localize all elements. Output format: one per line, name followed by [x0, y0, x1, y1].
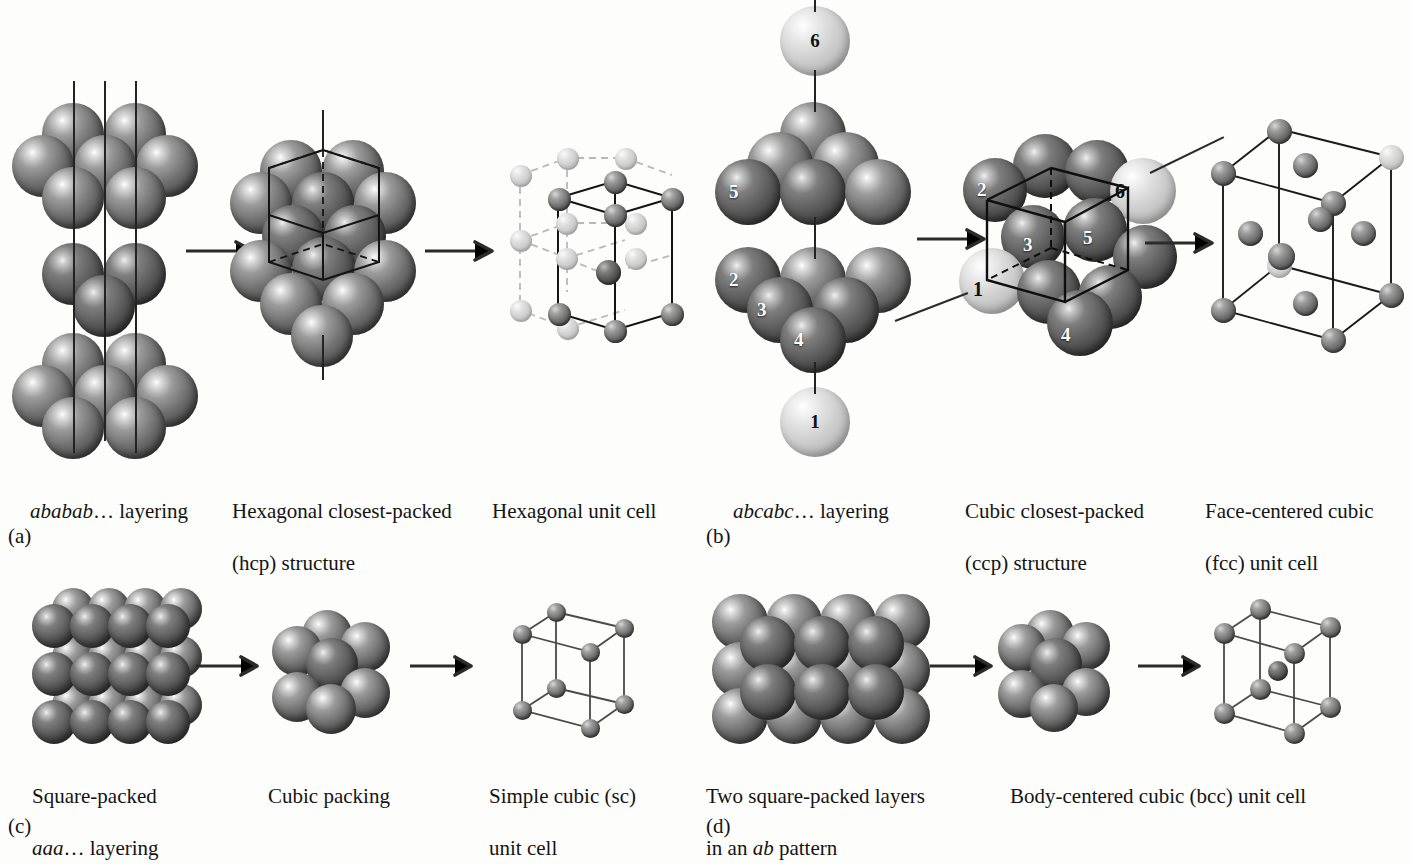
panel-letter-b: (b) — [706, 524, 731, 549]
atom — [510, 230, 532, 252]
sphere-label: 3 — [757, 299, 767, 321]
caption-two-square-packed-layers: Two square-packed layers in an ab patter… — [706, 757, 996, 864]
atom — [1214, 623, 1235, 644]
caption-abcabc-layering: abcabc… layering — [733, 472, 933, 524]
square-packed-layering-illustration — [18, 588, 203, 748]
atom-face-center — [1293, 153, 1318, 178]
sphere — [146, 700, 190, 744]
process-arrow — [1138, 655, 1202, 677]
caption-cubic-packing: Cubic packing — [268, 757, 448, 835]
atom — [556, 248, 578, 270]
sphere — [740, 664, 796, 720]
caption-line-1: Square-packed — [32, 783, 242, 809]
caption-text: … layering — [64, 836, 159, 860]
caption-text: in an — [706, 836, 753, 860]
caption-italic-term: ababab — [30, 499, 93, 523]
atom — [581, 719, 600, 738]
panel-letter-a: (a) — [8, 524, 31, 549]
process-arrow — [930, 655, 994, 677]
caption-line-1: Hexagonal closest-packed — [232, 498, 482, 524]
caption-line-2: (fcc) unit cell — [1205, 550, 1405, 576]
alignment-line — [814, 0, 816, 12]
atom — [615, 695, 634, 714]
atom — [1379, 283, 1404, 308]
atom — [604, 204, 627, 227]
sphere-label: 6 — [780, 30, 850, 52]
bcc-unit-cell-illustration — [1212, 605, 1352, 745]
process-arrow — [410, 655, 474, 677]
atom — [581, 643, 600, 662]
caption-italic-term: abcabc — [733, 499, 794, 523]
caption-line-1: Two square-packed layers — [706, 783, 996, 809]
sphere-1: 1 — [780, 387, 850, 457]
two-square-packed-layers-illustration — [706, 592, 936, 747]
ababab-layering-illustration — [8, 95, 208, 440]
caption-line-1: Face-centered cubic — [1205, 498, 1405, 524]
atom — [604, 320, 627, 343]
atom — [556, 213, 578, 235]
caption-line-1: Cubic packing — [268, 783, 448, 809]
atom — [548, 188, 571, 211]
sphere-6-label: 6 — [1115, 180, 1125, 203]
cubic-packing-illustration — [268, 610, 398, 740]
sphere-5: 5 — [715, 159, 781, 225]
atom — [1320, 617, 1341, 638]
atom — [1250, 599, 1271, 620]
bcc-packing-illustration — [996, 610, 1126, 740]
caption-simple-cubic-unit-cell: Simple cubic (sc) unit cell — [489, 757, 699, 864]
sphere-label: 2 — [729, 269, 739, 291]
hcp-structure-illustration — [240, 135, 430, 365]
panel-letter-d: (d) — [706, 814, 731, 839]
hexagonal-unit-cell-illustration — [492, 140, 692, 365]
caption-line-1: Body-centered cubic (bcc) unit cell — [1010, 783, 1370, 809]
caption-line-2: (hcp) structure — [232, 550, 482, 576]
process-arrow — [196, 655, 260, 677]
caption-square-packed-layering: Square-packed aaa… layering — [32, 757, 242, 864]
atom — [596, 260, 621, 285]
sphere-4: 4 — [780, 307, 846, 373]
atom — [510, 300, 532, 322]
abcabc-layering-illustration: 6 5 2 3 4 1 — [725, 2, 935, 442]
alignment-line — [135, 81, 137, 453]
alignment-line — [104, 81, 106, 441]
atom — [548, 303, 571, 326]
caption-text: … layering — [794, 499, 889, 523]
caption-line-1: Cubic closest-packed — [965, 498, 1195, 524]
sphere — [848, 664, 904, 720]
caption-line-2: (ccp) structure — [965, 550, 1195, 576]
sphere — [780, 159, 846, 225]
caption-text: … layering — [93, 499, 188, 523]
caption-hexagonal-unit-cell: Hexagonal unit cell — [492, 472, 712, 550]
alignment-line — [814, 70, 816, 112]
caption-text: pattern — [774, 836, 838, 860]
hexagonal-prism-wireframe — [240, 135, 430, 370]
atom — [1321, 328, 1346, 353]
caption-line-2: aaa… layering — [32, 835, 242, 861]
atom — [1320, 697, 1341, 718]
atom-face-center — [1308, 207, 1333, 232]
fcc-unit-cell-illustration — [1205, 135, 1405, 365]
atom — [625, 213, 647, 235]
atom — [547, 603, 566, 622]
atom — [547, 679, 566, 698]
caption-italic-term: aaa — [32, 836, 64, 860]
atom — [513, 701, 532, 720]
atom — [1211, 298, 1236, 323]
alignment-line — [814, 362, 816, 394]
atom — [615, 619, 634, 638]
panel-letter-c: (c) — [8, 814, 31, 839]
caption-line-2: in an ab pattern — [706, 835, 996, 861]
atom-face-center — [1238, 221, 1263, 246]
atom-body-center — [1268, 661, 1288, 681]
atom — [661, 188, 684, 211]
sphere — [1030, 684, 1078, 732]
caption-bcc-unit-cell: Body-centered cubic (bcc) unit cell — [1010, 757, 1370, 835]
atom — [1284, 643, 1305, 664]
sphere-label: 4 — [794, 329, 804, 351]
atom — [510, 165, 532, 187]
atom — [1211, 161, 1236, 186]
atom — [604, 171, 627, 194]
simple-cubic-unit-cell-illustration — [512, 608, 642, 743]
caption-hcp-structure: Hexagonal closest-packed (hcp) structure — [232, 472, 482, 602]
sphere — [146, 652, 190, 696]
